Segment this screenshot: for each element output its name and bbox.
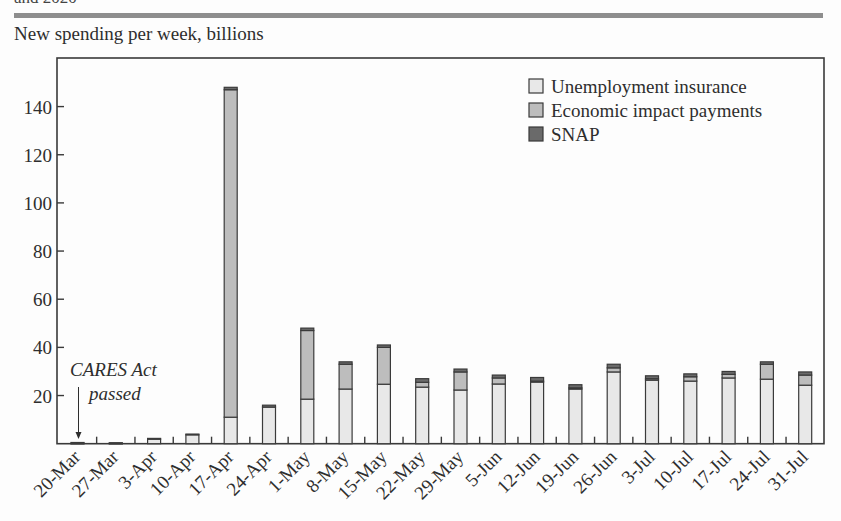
x-tick-label: 31-Jul: [764, 446, 812, 494]
bar-segment-snap: [492, 375, 505, 378]
bar-segment-economic-impact-payments: [301, 331, 314, 400]
bar-segment-unemployment-insurance: [799, 385, 812, 444]
bar-segment-snap: [416, 379, 429, 383]
bar-segment-snap: [301, 328, 314, 330]
y-tick-label: 120: [24, 145, 53, 166]
bar-segment-snap: [377, 345, 390, 347]
x-tick-label: 26-Jun: [569, 446, 621, 498]
x-tick-label: 24-Jul: [725, 446, 773, 494]
bar-segment-snap: [607, 364, 620, 368]
bar-segment-economic-impact-payments: [760, 364, 773, 379]
bar-17-Jul: [722, 371, 735, 443]
bar-27-Mar: [109, 443, 122, 444]
bar-19-Jun: [569, 385, 582, 444]
bar-segment-economic-impact-payments: [224, 90, 237, 417]
bar-segment-unemployment-insurance: [569, 389, 582, 444]
legend-label: Economic impact payments: [551, 100, 762, 121]
stacked-bar-chart: 20406080100120140 20-Mar27-Mar3-Apr10-Ap…: [0, 0, 841, 521]
bar-segment-unemployment-insurance: [339, 389, 352, 444]
bar-segment-snap: [148, 438, 161, 439]
bar-3-Apr: [148, 438, 161, 443]
x-tick-label: 17-Jul: [687, 446, 735, 494]
bar-segment-unemployment-insurance: [722, 378, 735, 444]
bar-10-Apr: [186, 434, 199, 444]
bar-22-May: [416, 379, 429, 444]
bar-segment-unemployment-insurance: [416, 387, 429, 444]
bar-12-Jun: [531, 377, 544, 443]
x-tick-label: 10-Jul: [649, 446, 697, 494]
legend-label: Unemployment insurance: [551, 76, 747, 97]
bar-segment-unemployment-insurance: [607, 372, 620, 444]
x-axis-labels: 20-Mar27-Mar3-Apr10-Apr17-Apr24-Apr1-May…: [29, 446, 812, 504]
legend-swatch-economic-impact-payments: [529, 103, 543, 117]
bar-segment-economic-impact-payments: [607, 368, 620, 372]
cares-act-annotation: CARES Act passed: [70, 359, 157, 439]
bar-segment-snap: [109, 443, 122, 444]
bar-segment-unemployment-insurance: [454, 390, 467, 444]
legend-label: SNAP: [551, 124, 600, 145]
bar-17-Apr: [224, 87, 237, 443]
y-axis: 20406080100120140: [24, 97, 65, 407]
bar-15-May: [377, 345, 390, 444]
y-tick-label: 100: [24, 193, 53, 214]
y-tick-label: 60: [33, 289, 52, 310]
bar-10-Jul: [684, 374, 697, 444]
bar-segment-snap: [646, 376, 659, 379]
bar-20-Mar: [71, 442, 84, 444]
bar-segment-unemployment-insurance: [301, 399, 314, 444]
bar-segment-economic-impact-payments: [454, 372, 467, 390]
bar-segment-snap: [760, 362, 773, 364]
bar-24-Apr: [263, 405, 276, 444]
bar-segment-economic-impact-payments: [799, 375, 812, 385]
bar-segment-snap: [684, 374, 697, 377]
bar-segment-unemployment-insurance: [186, 435, 199, 444]
bar-29-May: [454, 369, 467, 444]
legend: Unemployment insuranceEconomic impact pa…: [529, 76, 762, 145]
legend-swatch-unemployment-insurance: [529, 79, 543, 93]
annotation-line1: CARES Act: [70, 359, 157, 380]
bar-1-May: [301, 328, 314, 444]
y-tick-label: 40: [33, 337, 52, 358]
bar-5-Jun: [492, 375, 505, 444]
bars: [71, 87, 812, 444]
bar-segment-snap: [224, 87, 237, 89]
x-axis-ticks: [97, 437, 786, 444]
bar-segment-economic-impact-payments: [339, 364, 352, 389]
bar-8-May: [339, 362, 352, 444]
bar-segment-snap: [569, 385, 582, 388]
bar-segment-economic-impact-payments: [416, 382, 429, 387]
legend-swatch-snap: [529, 127, 543, 141]
bar-segment-snap: [339, 362, 352, 364]
bar-31-Jul: [799, 372, 812, 444]
bar-segment-snap: [186, 434, 199, 435]
arrowhead-icon: [76, 432, 82, 439]
bar-segment-snap: [454, 369, 467, 372]
bar-segment-unemployment-insurance: [646, 380, 659, 444]
bar-segment-unemployment-insurance: [148, 439, 161, 444]
y-tick-label: 20: [33, 386, 52, 407]
bar-segment-snap: [799, 372, 812, 375]
y-tick-label: 140: [24, 97, 53, 118]
bar-segment-snap: [263, 405, 276, 407]
bar-segment-unemployment-insurance: [377, 384, 390, 443]
bar-26-Jun: [607, 364, 620, 443]
bar-segment-unemployment-insurance: [224, 417, 237, 443]
bar-segment-economic-impact-payments: [377, 347, 390, 384]
annotation-line2: passed: [87, 383, 141, 404]
bar-segment-unemployment-insurance: [760, 379, 773, 444]
y-tick-label: 80: [33, 241, 52, 262]
bar-24-Jul: [760, 362, 773, 444]
bar-segment-snap: [531, 377, 544, 381]
bar-segment-unemployment-insurance: [492, 384, 505, 444]
bar-segment-snap: [71, 442, 84, 443]
bar-segment-economic-impact-payments: [492, 378, 505, 384]
bar-segment-unemployment-insurance: [263, 407, 276, 444]
bar-segment-economic-impact-payments: [684, 377, 697, 381]
bar-3-Jul: [646, 376, 659, 444]
bar-segment-unemployment-insurance: [531, 382, 544, 444]
x-tick-label: 1-May: [263, 446, 314, 497]
bar-segment-unemployment-insurance: [684, 381, 697, 444]
bar-segment-snap: [722, 371, 735, 374]
